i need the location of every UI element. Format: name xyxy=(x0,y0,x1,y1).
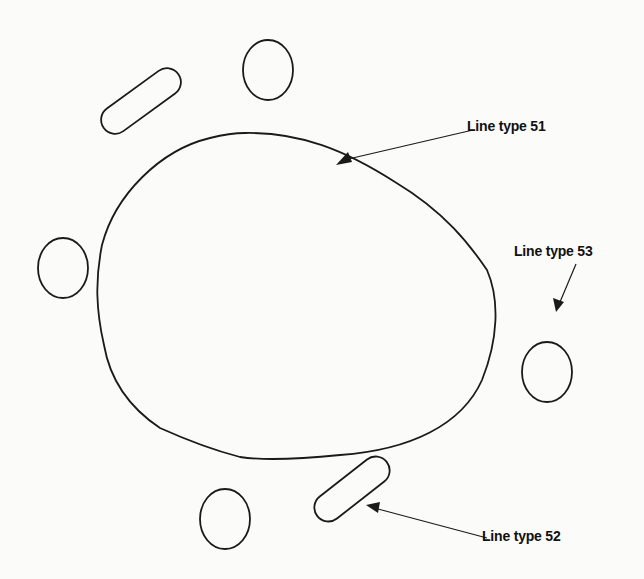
circle-top-shape xyxy=(243,40,293,100)
label-line-type-52: Line type 52 xyxy=(482,528,561,544)
circle-right-shape xyxy=(522,342,572,402)
circle-bottom-shape xyxy=(200,489,250,549)
circle-left-shape xyxy=(38,238,88,298)
label-line-type-53: Line type 53 xyxy=(514,243,593,259)
large-blob-shape xyxy=(97,133,495,459)
pill-top-left-shape xyxy=(96,63,187,140)
line-type-diagram: Line type 51 Line type 53 Line type 52 xyxy=(0,0,644,579)
leader-arrow-53 xyxy=(553,264,576,312)
leader-arrow-52 xyxy=(366,502,487,538)
diagram-canvas xyxy=(0,0,644,579)
pill-bottom-right-shape xyxy=(309,451,396,527)
label-line-type-51: Line type 51 xyxy=(467,118,546,134)
